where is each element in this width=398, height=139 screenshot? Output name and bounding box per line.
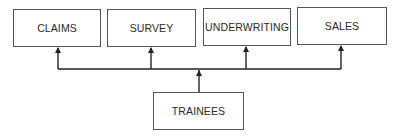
box-underwriting: UNDERWRITING [203,8,291,46]
box-label-trainees: TRAINEES [172,105,225,117]
box-label-claims: CLAIMS [37,22,77,34]
arrowhead-claims-icon [55,47,61,53]
arrowhead-survey-icon [148,47,154,53]
box-label-survey: SURVEY [130,22,174,34]
box-survey: SURVEY [107,9,196,47]
trainee-rotation-diagram: CLAIMS SURVEY UNDERWRITING SALES TRAINEE… [0,0,398,139]
arrowhead-bus-icon [196,70,202,76]
box-label-underwriting: UNDERWRITING [205,21,289,33]
box-trainees: TRAINEES [153,92,244,130]
arrowhead-underwriting-icon [243,46,249,52]
box-claims: CLAIMS [13,9,101,47]
box-label-sales: SALES [325,20,359,32]
box-sales: SALES [297,7,387,45]
arrowhead-sales-icon [338,45,344,51]
